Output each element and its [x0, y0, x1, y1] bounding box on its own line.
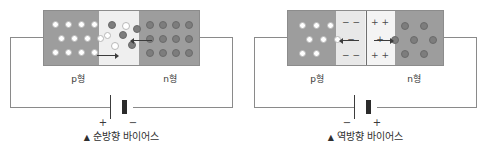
- electron-carrier: [146, 21, 154, 29]
- electron-carrier: [159, 21, 167, 29]
- forward-bias-caption: ▲ 순방향 바이어스: [0, 131, 243, 144]
- battery-long-plate: [354, 95, 355, 119]
- hole-carrier: [71, 35, 78, 42]
- depletion-sign-negative: − −: [342, 18, 360, 27]
- hole-carrier: [58, 35, 65, 42]
- junction-divider: [366, 11, 367, 65]
- n-type-label: n형: [407, 74, 421, 84]
- hole-pullback-arrow: [343, 40, 359, 41]
- hole-carrier: [65, 21, 72, 28]
- electron-carrier: [401, 50, 409, 58]
- p-type-label: p형: [71, 74, 85, 84]
- battery-negative-terminal-label: −: [343, 118, 351, 128]
- wire-right-vertical: [232, 37, 233, 108]
- wire-bottom-left: [10, 107, 110, 108]
- electron-carrier: [185, 21, 193, 29]
- battery-positive-terminal-label: +: [99, 118, 107, 128]
- depletion-sign-negative: − −: [342, 51, 360, 60]
- battery-positive-terminal-label: +: [373, 118, 381, 128]
- electron-carrier: [119, 31, 127, 39]
- battery-short-plate: [122, 100, 127, 114]
- depletion-sign-positive: +: [376, 35, 384, 44]
- electron-carrier: [159, 35, 167, 43]
- electron-carrier: [172, 49, 180, 57]
- caption-text: 역방향 바이어스: [337, 131, 403, 142]
- electron-carrier: [185, 49, 193, 57]
- wire-bottom-left: [254, 107, 354, 108]
- hole-carrier: [111, 42, 119, 50]
- wire-right-vertical: [476, 37, 477, 108]
- hole-carrier: [52, 21, 59, 28]
- hole-carrier: [104, 32, 111, 39]
- wire-top-left: [10, 37, 44, 38]
- reverse-bias-panel: − − − − − + + + + + p형 n형 − + ▲ 역방향 바이어스: [244, 0, 487, 146]
- depletion-sign-positive: + +: [371, 18, 389, 27]
- n-type-label: n형: [163, 74, 177, 84]
- reverse-bias-caption: ▲ 역방향 바이어스: [244, 131, 487, 144]
- depletion-sign-positive: + +: [371, 51, 389, 60]
- hole-carrier: [306, 36, 313, 43]
- electron-carrier: [146, 35, 154, 43]
- hole-carrier: [97, 35, 104, 42]
- hole-drift-arrow: [97, 55, 115, 56]
- electron-carrier: [172, 21, 180, 29]
- hole-carrier: [52, 49, 59, 56]
- hole-carrier: [78, 21, 85, 28]
- electron-carrier: [429, 36, 437, 44]
- hole-carrier: [299, 22, 306, 29]
- wire-top-right: [199, 37, 233, 38]
- electron-drift-arrow: [134, 40, 152, 41]
- hole-carrier: [299, 50, 306, 57]
- electron-carrier: [420, 22, 428, 30]
- electron-carrier: [420, 50, 428, 58]
- wire-left-vertical: [254, 37, 255, 108]
- depletion-sign-negative: −: [347, 35, 355, 44]
- hole-carrier: [313, 22, 320, 29]
- wire-top-left: [254, 37, 288, 38]
- hole-carrier: [327, 22, 334, 29]
- electron-carrier: [172, 35, 180, 43]
- electron-carrier: [401, 22, 409, 30]
- electron-carrier: [146, 49, 154, 57]
- hole-carrier: [313, 50, 320, 57]
- electron-carrier: [159, 49, 167, 57]
- battery-short-plate: [366, 100, 371, 114]
- hole-carrier: [78, 49, 85, 56]
- hole-carrier: [65, 49, 72, 56]
- wire-left-vertical: [10, 37, 11, 108]
- wire-top-right: [443, 37, 477, 38]
- p-type-label: p형: [310, 74, 324, 84]
- wire-bottom-right: [377, 107, 477, 108]
- caption-triangle-icon: ▲: [328, 133, 334, 142]
- caption-triangle-icon: ▲: [84, 133, 90, 142]
- caption-text: 순방향 바이어스: [93, 131, 159, 142]
- hole-carrier: [320, 36, 327, 43]
- hole-carrier: [91, 21, 98, 28]
- forward-bias-panel: p형 n형 + − ▲ 순방향 바이어스: [0, 0, 243, 146]
- electron-pullback-arrow: [374, 40, 390, 41]
- electron-carrier: [133, 25, 141, 33]
- hole-carrier: [84, 35, 91, 42]
- electron-carrier: [108, 21, 116, 29]
- electron-carrier: [410, 36, 418, 44]
- electron-carrier: [185, 35, 193, 43]
- battery-long-plate: [110, 95, 111, 119]
- hole-carrier: [122, 22, 130, 30]
- wire-bottom-right: [133, 107, 233, 108]
- battery-negative-terminal-label: −: [129, 118, 137, 128]
- pn-junction-figure: p형 n형 + − ▲ 순방향 바이어스: [0, 0, 487, 146]
